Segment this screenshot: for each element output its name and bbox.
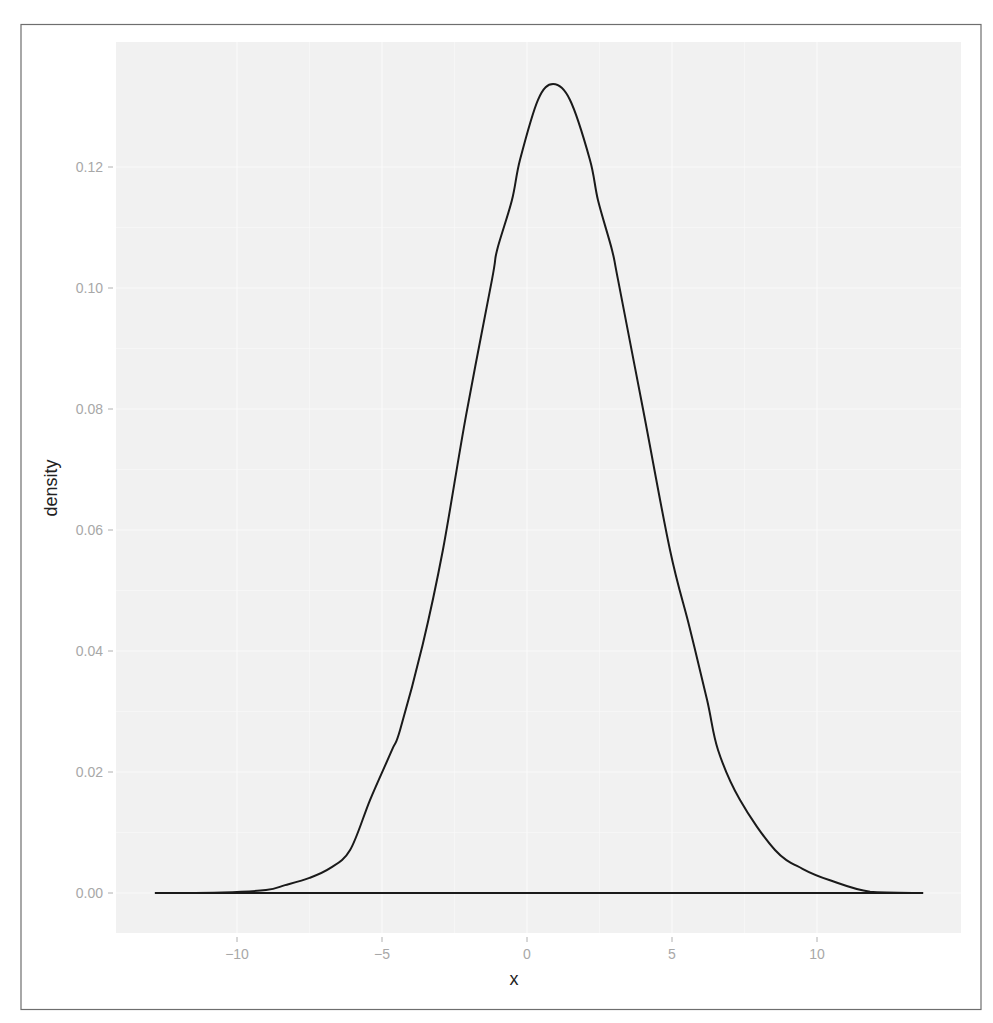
y-tick-label: 0.04 bbox=[76, 643, 103, 659]
y-tick-label: 0.06 bbox=[76, 522, 103, 538]
x-tick-label: 0 bbox=[523, 946, 531, 962]
x-axis-title: x bbox=[510, 969, 519, 989]
x-tick-label: −5 bbox=[374, 946, 390, 962]
x-tick-label: −10 bbox=[225, 946, 249, 962]
y-tick-label: 0.02 bbox=[76, 764, 103, 780]
y-tick-label: 0.08 bbox=[76, 401, 103, 417]
plot-panel bbox=[116, 42, 961, 933]
x-tick-label: 10 bbox=[809, 946, 825, 962]
y-axis-title: density bbox=[41, 459, 61, 516]
y-tick-label: 0.12 bbox=[76, 159, 103, 175]
x-tick-label: 5 bbox=[668, 946, 676, 962]
y-tick-label: 0.10 bbox=[76, 280, 103, 296]
density-plot: 0.000.020.040.060.080.100.12 −10−50510 x… bbox=[0, 0, 993, 1023]
y-tick-label: 0.00 bbox=[76, 885, 103, 901]
